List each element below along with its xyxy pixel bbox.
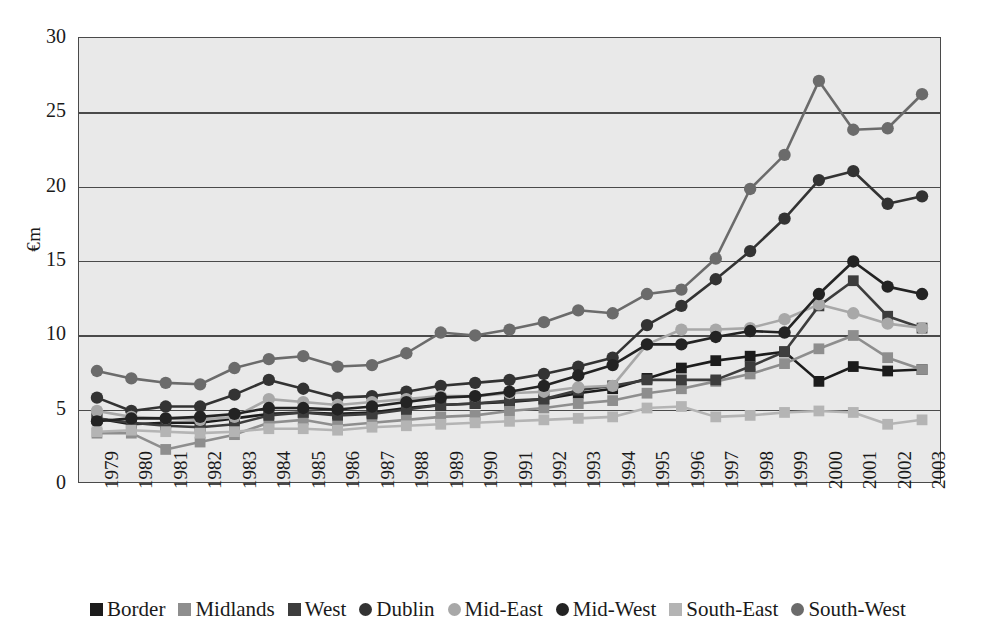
legend-item-mid-east[interactable]: Mid-East [448,599,543,620]
data-point [297,402,309,414]
x-axis-tick: 1999 [774,487,796,577]
legend-marker-circle-icon [556,603,569,616]
data-point [882,352,893,363]
data-point [332,425,343,436]
data-point [538,414,549,425]
data-point [881,122,893,134]
data-point [538,380,550,392]
x-axis-tick: 1992 [533,487,555,577]
data-point [710,252,722,264]
legend-marker-square-icon [178,603,191,616]
data-point [676,401,687,412]
data-point [641,319,653,331]
data-point [779,407,790,418]
data-point [848,407,859,418]
data-point [504,406,515,417]
data-point [504,416,515,427]
data-point [848,330,859,341]
data-point [917,364,928,375]
legend-marker-circle-icon [791,603,804,616]
data-point [538,316,550,328]
legend-label: Midlands [195,599,274,620]
data-point [881,280,893,292]
y-axis-tick-labels: 302520151050 [10,0,66,642]
data-point [572,304,584,316]
legend-item-mid-west[interactable]: Mid-West [556,599,656,620]
data-point [847,165,859,177]
x-axis-tick: 1988 [395,487,417,577]
data-point [606,307,618,319]
legend-label: Mid-West [573,599,656,620]
x-axis-tick: 1983 [223,487,245,577]
data-point [779,346,790,357]
x-axis-tick: 1995 [636,487,658,577]
y-axis-tick: 25 [18,100,66,120]
x-axis-tick: 1997 [705,487,727,577]
data-point [297,350,309,362]
data-point [503,374,515,386]
x-axis-tick: 1981 [154,487,176,577]
data-point [745,361,756,372]
legend-label: Mid-East [465,599,543,620]
data-point [710,412,721,423]
data-point [881,317,893,329]
data-point [813,174,825,186]
legend-item-south-east[interactable]: South-East [669,599,778,620]
legend-item-south-west[interactable]: South-West [791,599,905,620]
legend-label: South-West [808,599,905,620]
data-point [435,391,447,403]
legend-item-midlands[interactable]: Midlands [178,599,274,620]
data-point [676,363,687,374]
y-axis-tick: 5 [18,398,66,418]
data-point [882,366,893,377]
x-axis-tick: 1991 [499,487,521,577]
data-point [229,426,240,437]
data-point [91,365,103,377]
x-axis-tick: 2002 [878,487,900,577]
x-axis-tick: 1979 [85,487,107,577]
x-axis-tick: 1980 [119,487,141,577]
data-point [331,360,343,372]
legend-item-border[interactable]: Border [90,599,165,620]
data-point [470,417,481,428]
data-point [848,361,859,372]
data-point [503,386,515,398]
legend-item-dublin[interactable]: Dublin [359,599,434,620]
x-axis-tick: 1993 [567,487,589,577]
data-point [745,410,756,421]
data-point [469,377,481,389]
legend-label: West [305,599,346,620]
x-axis-tick: 2001 [843,487,865,577]
data-point [573,398,584,409]
data-point [503,323,515,335]
data-point [642,403,653,414]
data-point [710,355,721,366]
data-point [92,426,103,437]
data-point [126,425,137,436]
data-point [778,326,790,338]
y-axis-tick: 30 [18,26,66,46]
data-point [710,273,722,285]
x-axis-tick: 1990 [464,487,486,577]
data-point [366,400,378,412]
x-axis-tick: 1989 [430,487,452,577]
data-point [710,331,722,343]
data-point [263,374,275,386]
data-point [675,300,687,312]
data-point [641,288,653,300]
data-point [847,124,859,136]
chart-figure: €m 302520151050 197919801981198219831984… [0,0,996,642]
data-point [779,358,790,369]
data-point [813,75,825,87]
data-point [916,288,928,300]
data-point [607,395,618,406]
data-point [367,422,378,433]
data-point [642,388,653,399]
data-point [606,359,618,371]
legend-item-west[interactable]: West [288,599,346,620]
data-point [469,390,481,402]
data-point [814,406,825,417]
legend-marker-square-icon [669,603,682,616]
data-point [675,283,687,295]
data-point [331,403,343,415]
